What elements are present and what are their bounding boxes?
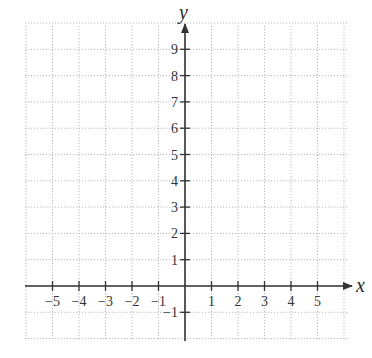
x-tick-label: −4 <box>72 294 87 309</box>
x-tick-label: 4 <box>288 294 295 309</box>
y-tick-label: 6 <box>171 121 178 136</box>
x-tick-label: −5 <box>45 294 60 309</box>
y-tick-label: 9 <box>171 42 178 57</box>
y-axis-label: y <box>177 1 188 24</box>
coordinate-plane: −5−4−3−2−112345−1123456789 x y <box>0 0 372 358</box>
x-tick-label: −3 <box>98 294 113 309</box>
x-tick-label: 1 <box>208 294 215 309</box>
x-tick-label: 3 <box>261 294 268 309</box>
x-axis-label: x <box>355 274 365 296</box>
x-tick-label: −2 <box>125 294 140 309</box>
y-tick-label: 7 <box>171 95 178 110</box>
y-tick-label: 8 <box>171 69 178 84</box>
x-tick-label: 5 <box>314 294 321 309</box>
y-tick-label: 5 <box>171 148 178 163</box>
y-tick-label: −1 <box>163 305 178 320</box>
y-tick-label: 1 <box>171 253 178 268</box>
y-tick-label: 4 <box>171 174 178 189</box>
y-tick-label: 3 <box>171 200 178 215</box>
y-tick-label: 2 <box>171 226 178 241</box>
x-tick-label: 2 <box>235 294 242 309</box>
